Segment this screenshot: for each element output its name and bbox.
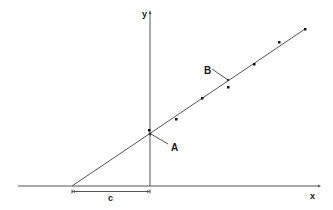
- y-axis: [149, 10, 152, 186]
- y-axis-label: y: [142, 9, 147, 19]
- data-point: [253, 63, 256, 66]
- data-point: [278, 41, 281, 44]
- annotation-b: B: [204, 65, 229, 81]
- data-point: [201, 97, 204, 100]
- label-c: c: [108, 193, 113, 203]
- data-point: [175, 118, 178, 121]
- data-point: [227, 86, 230, 89]
- x-axis: [18, 185, 321, 188]
- label-b: B: [204, 65, 211, 76]
- annotation-a: A: [149, 133, 179, 153]
- data-point: [148, 129, 151, 132]
- dimension-c: c: [72, 190, 150, 204]
- fit-line: [72, 29, 305, 186]
- x-axis-label: x: [310, 191, 315, 201]
- label-a: A: [171, 142, 178, 153]
- data-point: [304, 28, 307, 31]
- diagram-canvas: A B c y x: [0, 0, 333, 210]
- y-axis-arrow-icon: [149, 10, 152, 14]
- x-axis-arrow-icon: [318, 185, 321, 188]
